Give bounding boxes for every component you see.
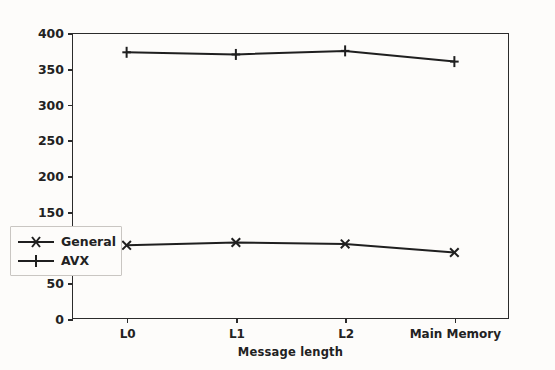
series-general: [122, 238, 458, 257]
chart-legend: General AVX: [10, 226, 122, 276]
data-series-layer: [0, 0, 555, 370]
data-point-marker: [122, 47, 131, 58]
data-point-marker: [450, 56, 459, 67]
line-chart-figure: MB/s 050100150200250300350400 L0L1L2Main…: [0, 0, 555, 370]
data-point-marker: [341, 45, 350, 56]
series-line: [127, 51, 455, 62]
legend-label-general: General: [61, 234, 116, 249]
legend-item-general: General: [16, 232, 115, 251]
legend-marker-plus-icon: [16, 253, 56, 269]
legend-marker-x-icon: [16, 234, 56, 250]
data-point-marker: [232, 49, 241, 60]
x-axis-label: Message length: [72, 345, 509, 359]
series-avx: [122, 45, 458, 67]
legend-item-avx: AVX: [16, 251, 115, 270]
legend-label-avx: AVX: [61, 253, 89, 268]
series-line: [127, 243, 455, 253]
